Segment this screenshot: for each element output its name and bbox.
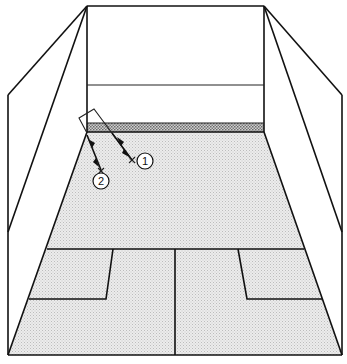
tin-board	[87, 123, 264, 132]
svg-text:2: 2	[98, 175, 104, 187]
squash-court-diagram: 1 2	[0, 0, 347, 364]
marker-2: 2	[93, 173, 109, 189]
svg-text:1: 1	[142, 155, 148, 167]
front-wall	[87, 6, 264, 132]
marker-1: 1	[137, 153, 153, 169]
